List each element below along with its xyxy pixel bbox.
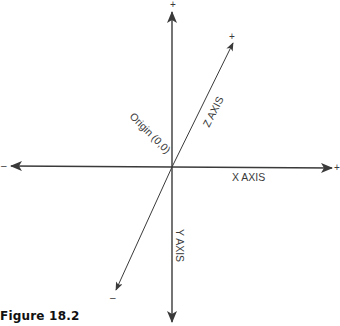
figure-caption: Figure 18.2 bbox=[0, 309, 80, 323]
z-axis-negative-sign: – bbox=[110, 292, 116, 303]
x-axis-positive-sign: + bbox=[334, 162, 340, 173]
origin-label: Origin (0,0) bbox=[128, 110, 174, 156]
x-axis-negative-sign: – bbox=[1, 160, 7, 171]
coordinate-axes-diagram: + Y AXIS + – X AXIS + – Z AXIS Origin (0… bbox=[0, 0, 340, 326]
y-axis: + Y AXIS bbox=[170, 0, 186, 322]
z-axis-positive-arrow bbox=[172, 43, 233, 167]
x-axis-label: X AXIS bbox=[232, 171, 265, 183]
z-axis-label: Z AXIS bbox=[200, 94, 226, 129]
x-axis-positive-arrow bbox=[172, 167, 332, 168]
y-axis-positive-sign: + bbox=[170, 0, 176, 10]
y-axis-label: Y AXIS bbox=[174, 229, 186, 262]
z-axis-negative-arrow bbox=[116, 167, 172, 290]
x-axis-negative-arrow bbox=[11, 166, 172, 167]
z-axis-positive-sign: + bbox=[229, 31, 235, 42]
